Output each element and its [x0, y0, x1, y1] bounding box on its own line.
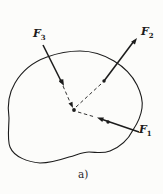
figure-panel: F3 F2 F1 a): [0, 0, 163, 194]
line-of-action-f2: [76, 84, 101, 107]
body-outline: [8, 51, 142, 163]
diagram-canvas: [0, 0, 163, 194]
force-label-f1: F1: [139, 124, 152, 135]
center-point: [72, 108, 76, 112]
line-of-action-f3: [63, 86, 70, 102]
line-of-action-f1: [78, 112, 95, 117]
force-vector-f3: [43, 45, 62, 83]
application-point-f3: [59, 79, 62, 82]
force-label-f1-letter: F: [139, 123, 147, 136]
force-label-f2-subscript: 2: [149, 31, 154, 40]
force-label-f3: F3: [33, 28, 46, 39]
force-label-f3-letter: F: [33, 27, 41, 40]
force-label-f2-letter: F: [141, 25, 149, 38]
arrowhead-f1: [96, 115, 104, 122]
arrowhead-f3-at-center: [68, 102, 75, 109]
figure-caption: a): [78, 169, 88, 180]
force-label-f2: F2: [141, 26, 154, 37]
force-label-f3-subscript: 3: [41, 33, 46, 42]
force-vector-f2: [104, 41, 134, 81]
application-point-f1: [106, 120, 109, 123]
force-label-f1-subscript: 1: [147, 129, 152, 138]
